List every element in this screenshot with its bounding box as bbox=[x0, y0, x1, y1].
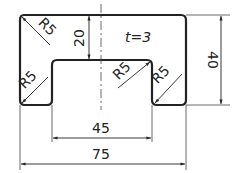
technical-drawing: 20 40 45 75 t=3 R5 R5 R5 R5 bbox=[0, 0, 235, 173]
height-dimension-label: 40 bbox=[205, 51, 221, 69]
profile-drawing: 20 40 45 75 t=3 R5 R5 R5 R5 bbox=[0, 0, 235, 173]
inner-width-dimension-label: 45 bbox=[92, 120, 110, 136]
radius-label-bottom-left: R5 bbox=[15, 67, 39, 91]
radius-label-inner-right: R5 bbox=[109, 58, 133, 82]
radius-label-top-left: R5 bbox=[35, 14, 59, 38]
thickness-label: t=3 bbox=[125, 29, 151, 45]
depth-dimension-label: 20 bbox=[71, 29, 87, 47]
overall-width-dimension-label: 75 bbox=[92, 146, 110, 162]
